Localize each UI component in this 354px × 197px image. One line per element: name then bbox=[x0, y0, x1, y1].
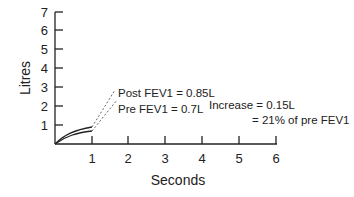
svg-text:1: 1 bbox=[88, 151, 95, 166]
y-tick-labels: 1 2 3 4 5 6 7 bbox=[41, 5, 48, 133]
svg-text:5: 5 bbox=[235, 151, 242, 166]
svg-text:7: 7 bbox=[41, 5, 48, 20]
pre-fev1-label: Pre FEV1 = 0.7L bbox=[118, 103, 204, 115]
post-fev1-label: Post FEV1 = 0.85L bbox=[118, 87, 215, 99]
svg-text:1: 1 bbox=[41, 118, 48, 133]
svg-text:3: 3 bbox=[41, 80, 48, 95]
svg-text:2: 2 bbox=[124, 151, 131, 166]
increase-label: Increase = 0.15L bbox=[209, 99, 296, 111]
extrapolations bbox=[92, 90, 117, 131]
svg-text:6: 6 bbox=[272, 151, 279, 166]
svg-text:6: 6 bbox=[41, 23, 48, 38]
pre-curve bbox=[55, 131, 92, 144]
svg-text:4: 4 bbox=[41, 61, 48, 76]
svg-text:2: 2 bbox=[41, 99, 48, 114]
post-dashed bbox=[92, 90, 115, 127]
fev1-chart: 1 2 3 4 5 6 7 1 2 3 4 5 6 Litres Seconds… bbox=[0, 0, 354, 197]
svg-text:5: 5 bbox=[41, 42, 48, 57]
svg-text:4: 4 bbox=[198, 151, 205, 166]
annotations: Post FEV1 = 0.85L Pre FEV1 = 0.7L Increa… bbox=[118, 87, 350, 126]
curves bbox=[55, 127, 92, 144]
svg-text:3: 3 bbox=[161, 151, 168, 166]
x-tick-labels: 1 2 3 4 5 6 bbox=[88, 151, 279, 166]
pre-dashed bbox=[92, 100, 117, 131]
percent-label: = 21% of pre FEV1 bbox=[252, 114, 350, 126]
axes bbox=[55, 12, 277, 144]
y-axis-label: Litres bbox=[17, 61, 33, 95]
post-curve bbox=[55, 127, 92, 144]
x-axis-label: Seconds bbox=[151, 172, 205, 188]
